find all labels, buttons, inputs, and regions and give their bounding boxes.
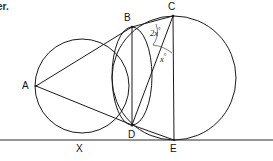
vertex-dot-a — [35, 85, 37, 87]
left-circle — [35, 39, 129, 133]
vertex-dot-c — [172, 15, 175, 18]
segment-ce — [173, 16, 174, 140]
geometry-figure: er. A B C D X E 2x° x° — [0, 0, 273, 161]
vertex-label-x: X — [76, 144, 83, 154]
segment-ad — [36, 86, 132, 125]
vertex-dot-e — [173, 139, 175, 141]
angle-label-dce: x° — [160, 53, 166, 63]
vertex-label-b: B — [124, 13, 131, 23]
vertex-dot-b — [131, 26, 134, 29]
degree-symbol-bcd: ° — [158, 26, 161, 33]
segment-bc — [132, 16, 173, 27]
segment-ab — [36, 27, 132, 86]
vertex-label-a: A — [22, 81, 29, 91]
vertex-label-e: E — [170, 144, 177, 154]
vertex-label-d: D — [128, 130, 135, 140]
geometry-canvas — [0, 0, 273, 161]
angle-label-bcd: 2x° — [150, 27, 161, 37]
vertex-label-c: C — [168, 2, 175, 12]
vertex-dot-d — [131, 124, 134, 127]
angle-value-bcd: 2x — [150, 28, 158, 38]
segment-de — [132, 125, 174, 140]
degree-symbol-dce: ° — [164, 52, 167, 59]
angle-arc-dce — [153, 45, 172, 53]
